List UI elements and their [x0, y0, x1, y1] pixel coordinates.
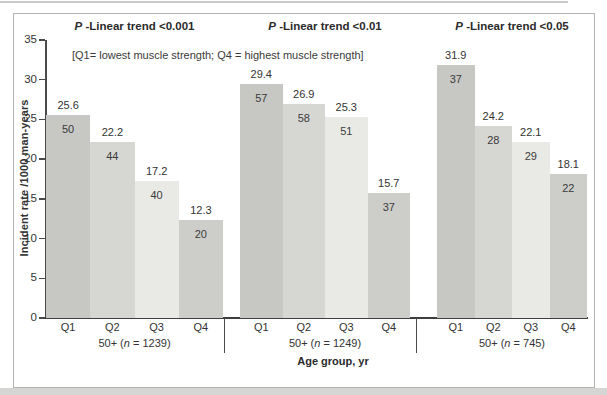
category-label-q2: Q2	[486, 321, 501, 333]
bar-q1-group1	[46, 115, 90, 318]
category-label-q2: Q2	[296, 321, 311, 333]
figure-page: Incident rate /1000 man-years [Q1= lowes…	[0, 0, 607, 395]
y-tick-mark	[39, 278, 45, 279]
bar-cell-q3-group1: 17.240Q3	[135, 40, 179, 318]
group-label-pre: 50+ (	[479, 337, 504, 349]
bar-cell-q1-group2: 29.457Q1	[240, 40, 283, 318]
count-label: 20	[195, 228, 207, 240]
p-italic: P	[455, 20, 463, 32]
scan-artifact-bottom	[0, 388, 607, 395]
group-size-label: 50+ (n = 1249)	[289, 337, 361, 349]
y-tick-label: 15	[9, 192, 37, 204]
y-tick-mark	[39, 39, 45, 40]
bar-q3-group3	[512, 142, 550, 318]
group-label-post: = 745)	[510, 337, 545, 349]
rate-label: 18.1	[558, 158, 579, 170]
y-tick-mark	[39, 238, 45, 239]
y-tick-label: 35	[9, 33, 37, 45]
group-size-label: 50+ (n = 745)	[479, 337, 545, 349]
panel-group-1: P -Linear trend <0.00125.650Q122.244Q217…	[46, 40, 223, 318]
group-label-pre: 50+ (	[289, 337, 314, 349]
category-label-q4: Q4	[194, 321, 209, 333]
bar-cell-q4-group2: 15.737Q4	[368, 40, 411, 318]
group-label-pre: 50+ (	[98, 337, 123, 349]
p-trend-text: -Linear trend <0.001	[82, 20, 194, 32]
rate-label: 22.2	[102, 126, 123, 138]
y-tick-label: 0	[9, 311, 37, 323]
count-label: 50	[62, 123, 74, 135]
rate-label: 29.4	[251, 68, 272, 80]
p-italic: P	[75, 20, 83, 32]
y-tick-mark	[39, 79, 45, 80]
panel-p-trend-label: P -Linear trend <0.01	[268, 20, 381, 32]
category-label-q4: Q4	[381, 321, 396, 333]
bar-q4-group3	[550, 174, 588, 318]
p-italic: P	[268, 20, 276, 32]
scan-artifact-top	[0, 1, 568, 3]
count-label: 37	[450, 73, 462, 85]
rate-label: 12.3	[190, 204, 211, 216]
rate-label: 15.7	[378, 177, 399, 189]
count-label: 44	[106, 150, 118, 162]
x-axis-title: Age group, yr	[297, 355, 369, 367]
category-label-q1: Q1	[61, 321, 76, 333]
bar-cell-q1-group3: 31.937Q1	[437, 40, 475, 318]
panel-p-trend-label: P -Linear trend <0.001	[75, 20, 195, 32]
category-label-q3: Q3	[523, 321, 538, 333]
category-label-q1: Q1	[448, 321, 463, 333]
y-tick-label: 20	[9, 152, 37, 164]
panel-p-trend-label: P -Linear trend <0.05	[455, 20, 568, 32]
bar-cell-q3-group2: 25.351Q3	[325, 40, 368, 318]
count-label: 58	[298, 112, 310, 124]
bar-cell-q2-group2: 26.958Q2	[283, 40, 326, 318]
group-label-post: = 1239)	[130, 337, 171, 349]
count-label: 29	[525, 150, 537, 162]
p-trend-text: -Linear trend <0.05	[463, 20, 569, 32]
y-tick-label: 30	[9, 73, 37, 85]
y-tick-mark	[39, 198, 45, 199]
group-divider-1	[224, 318, 225, 353]
count-label: 22	[562, 182, 574, 194]
y-tick-label: 10	[9, 232, 37, 244]
rate-label: 17.2	[146, 165, 167, 177]
bar-cell-q4-group3: 18.122Q4	[550, 40, 588, 318]
count-label: 40	[151, 189, 163, 201]
y-tick-mark	[39, 119, 45, 120]
bar-q3-group2	[325, 117, 368, 318]
y-tick-mark	[39, 158, 45, 159]
count-label: 57	[255, 92, 267, 104]
category-label-q3: Q3	[149, 321, 164, 333]
bar-q2-group1	[90, 142, 134, 318]
category-label-q4: Q4	[561, 321, 576, 333]
rate-label: 25.3	[336, 101, 357, 113]
bar-q1-group3	[437, 65, 475, 318]
bar-cell-q1-group1: 25.650Q1	[46, 40, 90, 318]
bar-q1-group2	[240, 84, 283, 318]
group-size-label: 50+ (n = 1239)	[98, 337, 170, 349]
rate-label: 25.6	[57, 99, 78, 111]
bar-q2-group3	[475, 126, 513, 318]
panel-group-3: P -Linear trend <0.0531.937Q124.228Q222.…	[437, 40, 587, 318]
category-label-q3: Q3	[339, 321, 354, 333]
y-tick-mark	[39, 317, 45, 318]
category-label-q2: Q2	[105, 321, 120, 333]
y-tick-label: 25	[9, 112, 37, 124]
count-label: 51	[340, 125, 352, 137]
bar-q3-group1	[135, 181, 179, 318]
bar-q2-group2	[283, 104, 326, 318]
rate-label: 31.9	[445, 49, 466, 61]
panel-group-2: P -Linear trend <0.0129.457Q126.958Q225.…	[240, 40, 410, 318]
group-divider-2	[416, 318, 417, 353]
p-trend-text: -Linear trend <0.01	[276, 20, 382, 32]
bar-cell-q4-group1: 12.320Q4	[179, 40, 223, 318]
count-label: 28	[487, 134, 499, 146]
bar-cell-q2-group3: 24.228Q2	[475, 40, 513, 318]
category-label-q1: Q1	[254, 321, 269, 333]
y-tick-label: 5	[9, 271, 37, 283]
group-label-post: = 1249)	[320, 337, 361, 349]
rate-label: 24.2	[483, 110, 504, 122]
count-label: 37	[383, 201, 395, 213]
bar-cell-q2-group1: 22.244Q2	[90, 40, 134, 318]
plot-area: [Q1= lowest muscle strength; Q4 = highes…	[45, 40, 587, 318]
rate-label: 26.9	[293, 88, 314, 100]
